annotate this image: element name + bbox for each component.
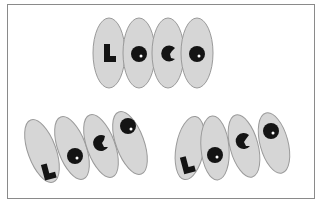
glyph-O-icon	[120, 118, 136, 134]
glyph-O-icon	[131, 46, 147, 62]
glyph-O-icon	[67, 148, 83, 164]
group-bottom-right-tilted	[171, 109, 296, 182]
ellipse-O	[198, 115, 231, 181]
glyph-O-icon	[207, 147, 223, 163]
group-top-upright	[93, 18, 213, 88]
ellipse-L	[93, 18, 125, 88]
group-bottom-left-tilted	[18, 107, 155, 187]
glyph-O-icon	[189, 46, 205, 62]
ellipse-C	[152, 18, 184, 88]
ellipse-O	[123, 18, 155, 88]
loco-diagram: .el{fill:#d6d6d6;stroke:#9a9a9a;stroke-w…	[0, 0, 323, 206]
ellipse-O2	[181, 18, 213, 88]
glyph-O-icon	[263, 123, 279, 139]
